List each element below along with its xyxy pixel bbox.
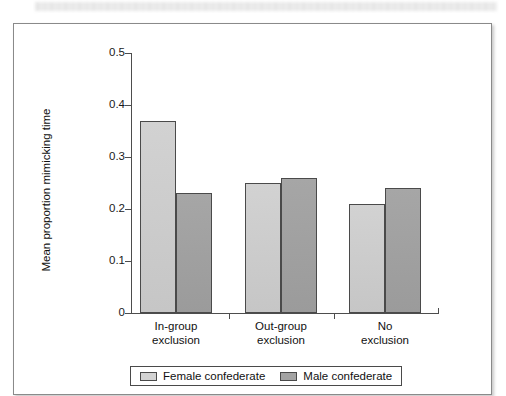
x-category-label-line: No	[325, 320, 445, 334]
x-axis-end-tick	[438, 308, 439, 314]
x-tick-mark	[229, 314, 230, 319]
x-category-label-1: Out-groupexclusion	[221, 320, 341, 347]
x-category-label-line: exclusion	[116, 334, 236, 348]
y-tick-mark	[125, 261, 131, 262]
y-tick-label-wrap: 0.1	[77, 255, 125, 256]
y-tick-label: 0.5	[83, 47, 125, 59]
legend-swatch-icon	[280, 372, 297, 381]
bar-female-1	[245, 183, 281, 313]
legend-label: Female confederate	[163, 370, 265, 382]
x-category-label-0: In-groupexclusion	[116, 320, 236, 347]
legend-swatch-icon	[140, 372, 157, 381]
bar-male-2	[385, 188, 421, 313]
x-axis-line	[131, 313, 439, 314]
y-tick-mark	[125, 313, 131, 314]
bar-male-0	[176, 193, 212, 313]
y-tick-mark	[125, 209, 131, 210]
y-axis-line	[131, 53, 132, 314]
bar-female-0	[140, 121, 176, 313]
y-tick-label: 0.2	[83, 203, 125, 215]
x-tick-mark	[334, 314, 335, 319]
figure-panel: Mean proportion mimicking time 00.10.20.…	[13, 23, 492, 395]
legend-item-female: Female confederate	[140, 370, 265, 382]
legend-label: Male confederate	[303, 370, 392, 382]
x-category-label-line: In-group	[116, 320, 236, 334]
y-tick-label: 0	[83, 307, 125, 319]
redacted-caption-strip	[35, 2, 497, 11]
legend-item-male: Male confederate	[280, 370, 392, 382]
bar-male-1	[281, 178, 317, 313]
x-category-label-line: exclusion	[325, 334, 445, 348]
bar-female-2	[349, 204, 385, 313]
y-axis-title: Mean proportion mimicking time	[40, 100, 52, 280]
x-category-label-line: Out-group	[221, 320, 341, 334]
y-tick-label-wrap: 0.3	[77, 151, 125, 152]
y-tick-label-wrap: 0.4	[77, 99, 125, 100]
chart-legend: Female confederateMale confederate	[130, 366, 402, 386]
y-tick-label: 0.1	[83, 255, 125, 267]
x-category-label-2: Noexclusion	[325, 320, 445, 347]
plot-area: Mean proportion mimicking time 00.10.20.…	[14, 24, 493, 396]
y-tick-label-wrap: 0	[77, 307, 125, 308]
y-tick-mark	[125, 53, 131, 54]
y-tick-label-wrap: 0.5	[77, 47, 125, 48]
y-tick-label-wrap: 0.2	[77, 203, 125, 204]
y-tick-mark	[125, 105, 131, 106]
y-tick-label: 0.4	[83, 99, 125, 111]
y-tick-mark	[125, 157, 131, 158]
x-category-label-line: exclusion	[221, 334, 341, 348]
y-tick-label: 0.3	[83, 151, 125, 163]
